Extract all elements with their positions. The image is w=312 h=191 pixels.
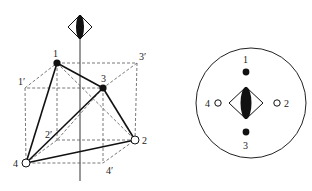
s4-axis-symbol-icon [68,15,92,39]
label-2: 2 [142,135,147,146]
proj-label-4: 4 [205,98,210,109]
left-panel-cube-tetrahedron: 1 3 2 4 1′ 2′ 3′ 4′ [13,15,147,181]
point-4-open [22,159,30,167]
proj-point-3-filled [243,129,250,136]
label-2-prime: 2′ [45,129,52,140]
proj-point-1-filled [243,69,250,76]
right-panel-stereographic-projection: 1 3 4 2 [196,48,306,158]
point-2-open [131,136,139,144]
symmetry-diagram: 1 3 2 4 1′ 2′ 3′ 4′ 1 3 4 2 [0,0,312,191]
label-4-prime: 4′ [106,165,113,176]
proj-label-2: 2 [284,98,289,109]
proj-label-3: 3 [243,140,248,151]
label-3: 3 [101,73,106,84]
proj-point-2-open [274,100,280,106]
s4-axis-symbol-icon [229,87,263,119]
point-1-filled [53,59,60,66]
label-3-prime: 3′ [139,51,146,62]
point-3-filled [99,84,106,91]
proj-label-1: 1 [243,54,248,65]
label-1: 1 [53,48,58,59]
label-4: 4 [13,158,18,169]
proj-point-4-open [215,100,221,106]
label-1-prime: 1′ [18,76,25,87]
